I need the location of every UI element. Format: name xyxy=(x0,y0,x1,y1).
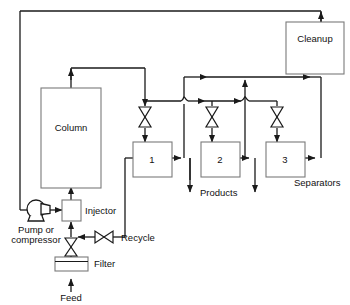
separator-2-label: 2 xyxy=(217,154,222,165)
gas-header-main xyxy=(145,97,277,107)
valve-recycle[interactable] xyxy=(95,231,113,243)
gas-header-upper-to-cleanup xyxy=(184,77,321,97)
stream-separator2-gas-out xyxy=(240,80,249,158)
valve-separator-3[interactable] xyxy=(271,107,283,127)
separator-1-label: 1 xyxy=(149,154,154,165)
unit-cleanup[interactable]: Cleanup xyxy=(286,22,344,74)
valve-feed[interactable] xyxy=(65,238,77,256)
valve-separator-2[interactable] xyxy=(206,107,218,127)
column-label: Column xyxy=(55,122,88,133)
products-label: Products xyxy=(200,187,238,198)
filter-label: Filter xyxy=(94,258,115,269)
separators-label: Separators xyxy=(294,177,341,188)
stream-separator1-gas-out xyxy=(172,104,184,158)
unit-filter[interactable] xyxy=(55,257,88,271)
pump-label-line2: compressor xyxy=(11,234,61,245)
unit-separator-1[interactable]: 1 xyxy=(133,142,172,177)
separator-3-label: 3 xyxy=(282,154,287,165)
unit-injector[interactable] xyxy=(62,200,81,221)
valve-separator-1[interactable] xyxy=(139,107,151,127)
injector-label: Injector xyxy=(85,205,116,216)
stream-separator3-gas-out xyxy=(305,77,321,158)
unit-separator-2[interactable]: 2 xyxy=(201,142,240,177)
recycle-label: Recycle xyxy=(121,232,155,243)
flow-diagram-canvas: Column Cleanup 1 2 3 xyxy=(0,0,350,305)
cleanup-label: Cleanup xyxy=(297,33,332,44)
unit-pump[interactable] xyxy=(27,200,50,221)
process-flow-diagram: Column Cleanup 1 2 3 xyxy=(0,0,350,305)
feed-label: Feed xyxy=(60,292,82,303)
unit-separator-3[interactable]: 3 xyxy=(266,142,305,177)
unit-column[interactable]: Column xyxy=(41,88,101,188)
